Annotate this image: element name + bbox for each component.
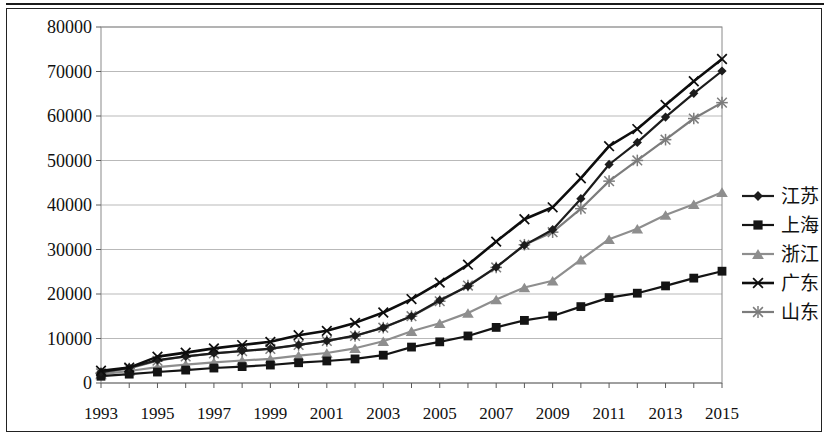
x-axis-tick-label: 2009 — [536, 404, 570, 423]
square-marker — [266, 361, 275, 370]
x-axis-tick-label: 2011 — [592, 404, 625, 423]
data-point-marker-star — [688, 113, 700, 125]
data-point-marker-x — [689, 76, 699, 86]
legend-item-label: 浙江 — [781, 243, 819, 265]
square-marker — [753, 220, 762, 229]
triangle-marker — [462, 308, 474, 318]
triangle-marker — [603, 234, 615, 244]
y-axis-tick-label: 20000 — [47, 284, 92, 304]
data-point-marker-square — [718, 267, 727, 276]
square-marker — [407, 343, 416, 352]
legend-item-label: 江苏 — [781, 185, 819, 207]
triangle-marker — [660, 210, 672, 220]
x-axis-tick-label: 1999 — [253, 404, 287, 423]
data-point-marker-square — [492, 323, 501, 332]
legend-item-3[interactable]: 广东 — [742, 272, 819, 294]
data-point-marker-square — [322, 357, 331, 366]
square-marker — [492, 323, 501, 332]
square-marker — [435, 337, 444, 346]
square-marker — [322, 357, 331, 366]
data-point-marker-square — [238, 362, 247, 371]
data-point-marker-triangle — [660, 210, 672, 220]
y-axis-tick-label: 10000 — [47, 329, 92, 349]
data-point-marker-x — [633, 124, 643, 134]
data-point-marker-square — [576, 302, 585, 311]
data-point-marker-square — [548, 312, 557, 321]
triangle-marker — [716, 187, 728, 197]
data-point-marker-triangle — [490, 295, 502, 305]
x-axis-tick-label: 2007 — [479, 404, 514, 423]
square-marker — [294, 358, 303, 367]
y-axis-tick-labels: 0100002000030000400005000060000700008000… — [47, 17, 101, 393]
data-point-marker-square — [661, 282, 670, 291]
data-point-marker-triangle — [632, 224, 644, 234]
triangle-marker — [632, 224, 644, 234]
data-point-marker-square — [266, 361, 275, 370]
data-point-marker-x — [463, 260, 473, 270]
x-axis-tick-label: 2015 — [705, 404, 739, 423]
square-marker — [238, 362, 247, 371]
square-marker — [605, 293, 614, 302]
series-line — [101, 271, 722, 376]
x-axis-tick-label: 2013 — [649, 404, 683, 423]
data-point-marker-triangle — [603, 234, 615, 244]
data-point-marker-x — [661, 100, 671, 110]
data-point-marker-star — [716, 97, 728, 109]
data-point-marker-square — [379, 351, 388, 360]
y-axis-tick-label: 70000 — [47, 62, 92, 82]
x-axis-tick-label: 1997 — [197, 404, 232, 423]
data-point-marker-star — [632, 155, 644, 167]
data-point-marker-x — [407, 294, 417, 304]
data-series-group — [95, 54, 728, 380]
y-axis-tick-label: 60000 — [47, 106, 92, 126]
data-point-marker-square — [633, 289, 642, 298]
data-point-marker-x — [576, 173, 586, 183]
data-point-marker-square — [689, 274, 698, 283]
series-line — [101, 59, 722, 371]
y-axis-tick-label: 40000 — [47, 195, 92, 215]
data-point-marker-star — [603, 175, 615, 187]
line-chart: 0100002000030000400005000060000700008000… — [0, 0, 829, 436]
legend-item-4[interactable]: 山东 — [742, 301, 819, 323]
x-axis-tick-label: 2005 — [423, 404, 457, 423]
data-point-marker-square — [153, 368, 162, 377]
series-4 — [95, 97, 728, 379]
data-point-marker-diamond — [753, 191, 763, 201]
square-marker — [520, 316, 529, 325]
y-axis-tick-label: 0 — [83, 373, 92, 393]
x-axis-tick-label: 2001 — [310, 404, 344, 423]
square-marker — [689, 274, 698, 283]
legend-item-1[interactable]: 上海 — [742, 214, 819, 236]
y-axis-tick-label: 50000 — [47, 151, 92, 171]
x-axis-tick-label: 1995 — [140, 404, 174, 423]
data-point-marker-square — [351, 355, 360, 364]
legend-item-0[interactable]: 江苏 — [742, 185, 819, 207]
x-axis-tick-marks — [101, 383, 722, 388]
data-point-marker-square — [605, 293, 614, 302]
data-point-marker-triangle — [688, 199, 700, 209]
square-marker — [661, 282, 670, 291]
data-point-marker-star — [752, 306, 764, 318]
y-axis-tick-label: 30000 — [47, 240, 92, 260]
x-axis-tick-labels: 1993199519971999200120032005200720092011… — [84, 404, 739, 423]
square-marker — [351, 355, 360, 364]
legend-item-2[interactable]: 浙江 — [742, 243, 819, 265]
triangle-marker — [688, 199, 700, 209]
data-point-marker-x — [604, 141, 614, 151]
data-point-marker-x — [435, 278, 445, 288]
legend-item-label: 广东 — [781, 272, 819, 294]
y-axis-tick-label: 80000 — [47, 17, 92, 37]
data-point-marker-square — [464, 332, 473, 341]
data-point-marker-square — [753, 220, 762, 229]
data-point-marker-square — [181, 366, 190, 375]
chart-page: 0100002000030000400005000060000700008000… — [0, 0, 829, 436]
diamond-marker — [753, 191, 763, 201]
data-point-marker-square — [210, 364, 219, 373]
legend-item-label: 上海 — [781, 214, 819, 236]
square-marker — [633, 289, 642, 298]
data-point-marker-x — [491, 237, 501, 247]
data-point-marker-square — [294, 358, 303, 367]
data-point-marker-triangle — [716, 187, 728, 197]
legend-item-label: 山东 — [781, 301, 819, 323]
square-marker — [548, 312, 557, 321]
